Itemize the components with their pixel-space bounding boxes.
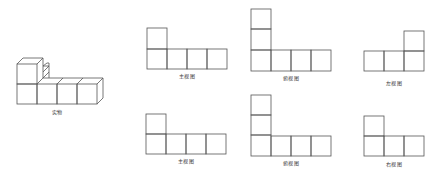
front-view-2 — [146, 114, 226, 154]
three-view-diagram — [0, 0, 440, 181]
top-view-1-label: 俯视图 — [283, 74, 300, 81]
top-view-2 — [251, 95, 331, 156]
object-3d — [17, 58, 103, 104]
right-view — [364, 116, 424, 156]
left-view — [364, 31, 424, 71]
top-view-2-label: 俯视图 — [283, 159, 300, 166]
front-view-2-label: 主视图 — [178, 157, 195, 164]
right-view-label: 右视图 — [386, 160, 403, 167]
front-view-1 — [147, 28, 227, 69]
top-view-1 — [251, 9, 331, 71]
left-view-label: 左视图 — [386, 79, 403, 86]
object-label: 实物 — [52, 108, 63, 115]
front-view-1-label: 主视图 — [179, 72, 196, 79]
